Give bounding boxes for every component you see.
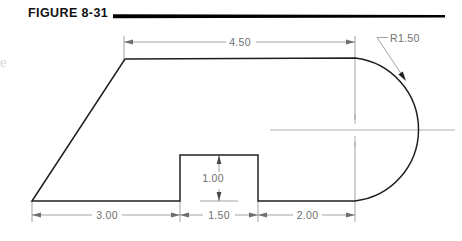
arrowhead-1-50-left	[180, 213, 189, 218]
arrowhead-2-00-left	[258, 213, 267, 218]
arrowhead-3-00-right	[171, 213, 180, 218]
dimension-label-1-00: 1.00	[202, 172, 224, 184]
arrowhead-4-50-right	[346, 40, 355, 45]
extension-lines-group	[32, 36, 355, 222]
dimension-label-3-00: 3.00	[96, 209, 118, 221]
engineering-drawing-canvas: 4.50 3.00 1.50 2.00	[0, 0, 462, 241]
arrowhead-1-50-right	[249, 213, 258, 218]
center-lines-group	[270, 114, 455, 147]
arrowhead-1-00-bottom	[217, 192, 222, 201]
dimension-label-1-50: 1.50	[208, 209, 230, 221]
dimension-label-4-50: 4.50	[229, 36, 251, 48]
arrowhead-r1-50	[399, 72, 407, 82]
arrowhead-4-50-left	[124, 40, 133, 45]
dimension-label-2-00: 2.00	[297, 209, 319, 221]
dimension-r1-50-leader	[377, 38, 406, 82]
arrowhead-3-00-left	[32, 213, 41, 218]
arrowhead-2-00-right	[346, 213, 355, 218]
figure-root: FIGURE 8-31 e 4.50	[0, 0, 462, 241]
part-outline-path	[32, 58, 419, 201]
title-rule	[113, 14, 445, 18]
arrowhead-1-00-top	[217, 155, 222, 164]
dimension-label-r1-50: R1.50	[390, 32, 420, 44]
